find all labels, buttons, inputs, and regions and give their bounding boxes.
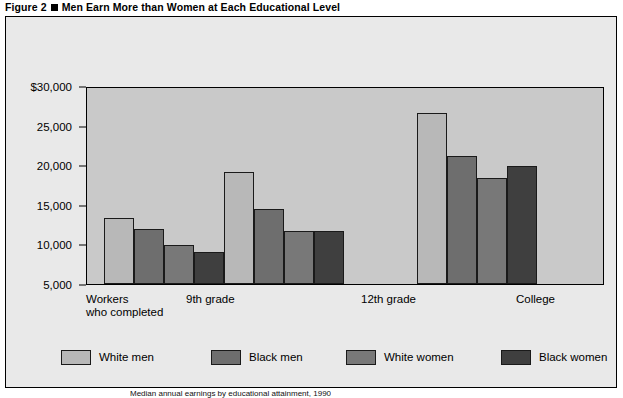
y-axis-tick-label: 25,000 [37,121,72,133]
bar [507,166,537,284]
bar-group [104,88,224,284]
bar [284,231,314,284]
x-axis-category-label: 12th grade [361,293,416,306]
y-axis-tick-label: 15,000 [37,200,72,212]
y-axis-tick-label: 10,000 [37,239,72,251]
x-axis-category-label: 9th grade [186,293,235,306]
y-axis-tick-mark [79,166,86,167]
bar [477,178,507,284]
bar [254,209,284,284]
y-axis-tick-mark [79,126,86,127]
y-axis-tick-label: $30,000 [30,81,72,93]
x-axis-labels: Workers who completed 9th grade12th grad… [86,289,604,329]
square-bullet-icon [51,4,58,11]
x-axis-prefix-line2: who completed [86,306,163,318]
legend-swatch [211,350,241,365]
y-axis: $30,00025,00020,00015,00010,0005,000 [6,72,82,302]
figure-caption: Figure 2Men Earn More than Women at Each… [5,1,340,13]
bar-group [224,88,344,284]
x-axis-category-label: College [516,293,555,306]
bar [104,218,134,284]
legend-item: Black men [211,350,303,365]
chart-legend: White menBlack menWhite womenBlack women [61,342,591,372]
y-axis-tick-label: 20,000 [37,160,72,172]
legend-label: White women [384,351,454,363]
bar [194,252,224,284]
legend-label: Black women [539,351,607,363]
bar [417,113,447,284]
legend-label: Black men [249,351,303,363]
y-axis-tick-label: 5,000 [43,279,72,291]
legend-item: White men [61,350,154,365]
bar [314,231,344,284]
legend-item: Black women [501,350,607,365]
y-axis-tick-mark [79,245,86,246]
source-note-text: Median annual earnings by educational at… [130,389,331,398]
y-axis-tick-mark [79,87,86,88]
x-axis-prefix-label: Workers who completed [86,293,163,319]
bar [134,229,164,284]
legend-swatch [346,350,376,365]
bar [224,172,254,284]
bar [164,245,194,284]
y-axis-tick-mark [79,205,86,206]
source-note: Median annual earnings by educational at… [130,389,331,398]
bars-container [87,88,603,284]
figure-label: Figure 2 [5,1,47,13]
bar [447,156,477,284]
legend-item: White women [346,350,454,365]
bar-group [417,88,537,284]
y-axis-tick-mark [79,285,86,286]
legend-label: White men [99,351,154,363]
x-axis-prefix-line1: Workers [86,293,129,305]
figure-panel: $30,00025,00020,00015,00010,0005,000 Wor… [5,16,617,388]
legend-swatch [61,350,91,365]
figure-title: Men Earn More than Women at Each Educati… [62,1,340,13]
legend-swatch [501,350,531,365]
plot-area [86,87,604,285]
